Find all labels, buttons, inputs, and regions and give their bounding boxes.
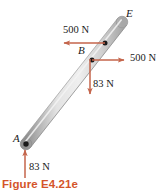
figure-e4-21e: A B E 500 N 500 N 83 N 83 N Figure E4.21…: [0, 0, 165, 195]
force-label-right-at-b: 500 N: [130, 53, 156, 64]
point-label-b: B: [78, 45, 85, 56]
point-label-a: A: [13, 133, 20, 144]
point-label-e: E: [126, 8, 133, 19]
force-label-upper-left: 500 N: [63, 25, 89, 36]
point-a-dot: [23, 141, 28, 146]
force-label-up-at-a: 83 N: [29, 162, 50, 173]
force-vectors: [25, 43, 124, 178]
force-label-down-at-b: 83 N: [93, 79, 114, 90]
figure-caption: Figure E4.21e: [2, 178, 78, 190]
